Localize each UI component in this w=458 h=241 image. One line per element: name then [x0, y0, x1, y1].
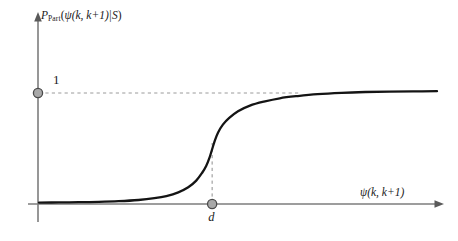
plot-canvas	[0, 0, 458, 241]
y-axis-label-args: (k, k+1)	[72, 9, 109, 21]
y-axis-label-p: P	[41, 9, 48, 21]
x-axis-d-marker	[208, 199, 217, 208]
y-axis-tick-label-one: 1	[53, 72, 60, 88]
y-axis-one-marker	[33, 88, 42, 97]
sigmoid-figure: PPart(ψ(k, k+1)|S) ψ(k, k+1) 1 d	[0, 0, 458, 241]
x-axis-arrowhead	[435, 200, 445, 207]
y-axis-label: PPart(ψ(k, k+1)|S)	[41, 9, 122, 23]
y-axis-label-subscript: Part	[48, 14, 61, 23]
y-axis-label-close-paren: )	[118, 9, 122, 21]
x-axis-label: ψ(k, k+1)	[360, 186, 404, 198]
x-axis-label-args: (k, k+1)	[367, 186, 404, 198]
y-axis-label-psi: ψ	[64, 9, 71, 21]
x-axis-tick-label-d: d	[208, 210, 214, 225]
